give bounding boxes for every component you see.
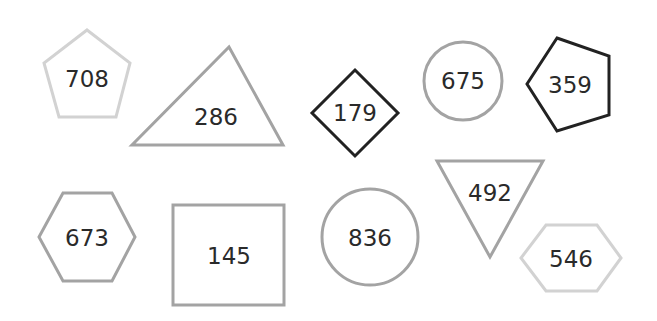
shape-label: 836 bbox=[348, 225, 392, 251]
triangle-icon bbox=[132, 47, 283, 145]
shape-label: 145 bbox=[207, 243, 251, 269]
shape-diamond-179: 179 bbox=[312, 70, 398, 156]
shape-circle-836: 836 bbox=[322, 189, 418, 285]
shape-label: 359 bbox=[548, 72, 592, 98]
shape-label: 673 bbox=[65, 225, 109, 251]
shape-label: 492 bbox=[468, 180, 512, 206]
shape-label: 675 bbox=[441, 68, 485, 94]
shape-rectangle-145: 145 bbox=[173, 205, 284, 305]
shape-hexagon-673: 673 bbox=[39, 193, 135, 281]
shape-hexagon-546: 546 bbox=[521, 225, 621, 291]
shapes-canvas: 708 286 179 675 359 673 145 836 492 bbox=[0, 0, 657, 321]
shape-label: 708 bbox=[65, 66, 109, 92]
shape-label: 179 bbox=[333, 100, 377, 126]
shape-circle-675: 675 bbox=[424, 42, 502, 120]
shape-triangle-286: 286 bbox=[132, 47, 283, 145]
shape-inverted-triangle-492: 492 bbox=[437, 161, 543, 257]
shape-label: 286 bbox=[194, 104, 238, 130]
triangle-down-icon bbox=[437, 161, 543, 257]
shape-pentagon-708: 708 bbox=[44, 30, 130, 117]
shape-label: 546 bbox=[549, 246, 593, 272]
shape-pentagon-359: 359 bbox=[527, 38, 609, 131]
